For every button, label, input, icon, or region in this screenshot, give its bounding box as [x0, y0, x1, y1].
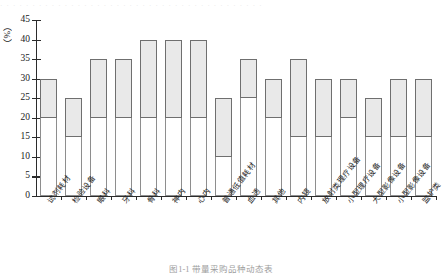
y-axis-line [36, 20, 37, 196]
y-tick [32, 20, 37, 21]
bar-base-segment [115, 118, 132, 196]
bar-base-segment [165, 118, 182, 196]
y-tick-label: 25 [21, 93, 31, 103]
y-tick [32, 79, 37, 80]
bar-range-segment [265, 79, 282, 118]
bar-base-segment [40, 118, 57, 196]
y-tick-label: 0 [25, 191, 30, 201]
y-tick [32, 40, 37, 41]
x-tick [286, 196, 287, 200]
bar-range-segment [340, 79, 357, 118]
bar [290, 20, 307, 196]
bar-range-segment [115, 59, 132, 118]
bar-chart-figure: （%） 051015202530354045 试剂耗材检验设备眼科牙科骨科神内心… [0, 0, 442, 274]
y-tick-label: 35 [21, 54, 31, 64]
y-tick-label: 5 [25, 172, 30, 182]
bar-base-segment [140, 118, 157, 196]
x-tick [411, 196, 412, 200]
y-tick-label: 20 [21, 113, 31, 123]
y-tick [32, 59, 37, 60]
bar-range-segment [415, 79, 432, 138]
y-tick-label: 15 [21, 133, 31, 143]
x-tick [61, 196, 62, 200]
bar [140, 20, 157, 196]
bar-range-segment [315, 79, 332, 138]
x-tick [386, 196, 387, 200]
x-tick [111, 196, 112, 200]
y-tick [32, 137, 37, 138]
bar-range-segment [140, 40, 157, 118]
bar-range-segment [190, 40, 207, 118]
y-tick [32, 98, 37, 99]
bar-range-segment [240, 59, 257, 98]
bar-range-segment [290, 59, 307, 137]
y-tick-label: 10 [21, 152, 31, 162]
y-tick [32, 176, 37, 177]
x-tick [136, 196, 137, 200]
bar [265, 20, 282, 196]
bar [65, 20, 82, 196]
y-tick [32, 157, 37, 158]
y-tick-label: 40 [21, 35, 31, 45]
y-tick [32, 196, 37, 197]
x-tick [236, 196, 237, 200]
bar-range-segment [165, 40, 182, 118]
bar-range-segment [40, 79, 57, 118]
x-tick [361, 196, 362, 200]
y-tick-inner [37, 196, 41, 197]
bar [40, 20, 57, 196]
x-tick [336, 196, 337, 200]
y-axis-unit-label: （%） [2, 22, 16, 48]
x-tick [436, 196, 437, 200]
y-tick-label: 45 [21, 15, 31, 25]
y-tick-label: 30 [21, 74, 31, 84]
bar-range-segment [390, 79, 407, 138]
x-tick [86, 196, 87, 200]
x-tick [161, 196, 162, 200]
bar-range-segment [215, 98, 232, 157]
figure-caption: 图1-1 带量采购品种动态表 [0, 264, 442, 274]
bar [165, 20, 182, 196]
x-tick [211, 196, 212, 200]
bar-base-segment [190, 118, 207, 196]
y-tick [32, 118, 37, 119]
bar-range-segment [90, 59, 107, 118]
bar-range-segment [65, 98, 82, 137]
x-tick [186, 196, 187, 200]
bar-base-segment [265, 118, 282, 196]
bar [90, 20, 107, 196]
bar [190, 20, 207, 196]
x-tick [261, 196, 262, 200]
x-tick [311, 196, 312, 200]
bar [315, 20, 332, 196]
bar-range-segment [365, 98, 382, 137]
bar [215, 20, 232, 196]
bar [115, 20, 132, 196]
